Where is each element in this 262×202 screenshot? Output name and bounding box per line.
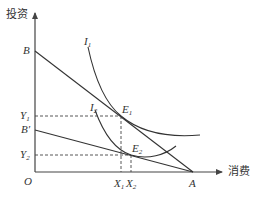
E2-label: E2	[132, 143, 142, 156]
I1-label: I1	[84, 36, 91, 49]
point-B-prime-label: B′	[21, 124, 30, 135]
I2-label: I2	[90, 102, 97, 115]
point-B-label: B	[23, 45, 30, 56]
E1-label: E1	[122, 104, 132, 117]
point-A-label: A	[189, 178, 196, 189]
X2-label: X2	[126, 178, 136, 191]
origin-label: O	[24, 176, 32, 187]
Y2-label: Y2	[20, 149, 30, 162]
budget-line-BA	[35, 51, 193, 172]
y-axis-label: 投资	[6, 9, 28, 20]
x-axis-label: 消费	[228, 166, 250, 177]
Y1-label: Y1	[20, 110, 30, 123]
indifference-curve-I1	[88, 47, 200, 136]
X1-label: X1	[114, 178, 124, 191]
budget-indifference-diagram	[0, 0, 262, 202]
